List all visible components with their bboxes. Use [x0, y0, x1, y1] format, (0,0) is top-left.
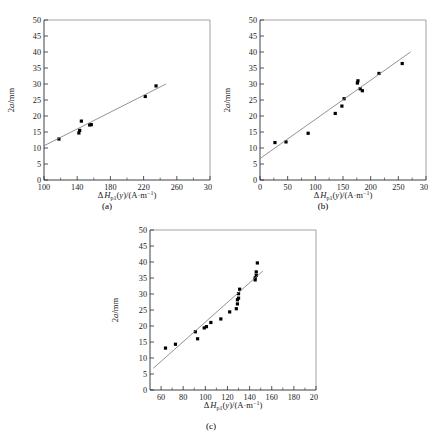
svg-text:2a/mm: 2a/mm [110, 298, 120, 323]
y-tick-label: 15 [33, 128, 41, 137]
y-tick-label: 5 [37, 160, 41, 169]
x-axis-title-c: ΔHp1(y)/(A·m−1) [204, 400, 263, 411]
data-point [80, 120, 83, 123]
data-point [164, 346, 167, 349]
x-tick-label: 60 [157, 393, 165, 402]
y-tick-label: 25 [139, 306, 147, 315]
svg-text:ΔHp1(y)/(A·m−1): ΔHp1(y)/(A·m−1) [314, 190, 373, 201]
scatter-plot-a: 05101520253035404550 100140180220260300 … [2, 6, 212, 206]
y-tick-label: 30 [249, 80, 257, 89]
y-tick-label: 50 [139, 226, 147, 235]
y-tick-label: 45 [33, 32, 41, 41]
data-point [219, 317, 222, 320]
data-point [356, 79, 359, 82]
y-tick-label: 20 [33, 112, 41, 121]
data-point [255, 270, 258, 273]
x-tick-label: 140 [71, 183, 83, 192]
x-tick-label: 50 [284, 183, 292, 192]
data-point [228, 310, 231, 313]
data-point [307, 132, 310, 135]
svg-text:ΔHp1(y)/(A·m−1): ΔHp1(y)/(A·m−1) [98, 190, 157, 201]
scatter-plot-b: 05101520253035404550 050100150200250300 … [218, 6, 428, 206]
data-point [237, 297, 240, 300]
plot-frame-a [44, 20, 210, 180]
chart-panel-c: 05101520253035404550 6080100120140160180… [104, 218, 318, 434]
y-tick-label: 10 [249, 144, 257, 153]
y-tick-label: 45 [249, 32, 257, 41]
y-ticks-c: 05101520253035404550 [139, 226, 154, 395]
y-tick-label: 25 [249, 96, 257, 105]
data-point [235, 307, 238, 310]
y-tick-label: 35 [139, 274, 147, 283]
y-axis-title-c: 2a/mm [110, 298, 120, 323]
data-point [205, 325, 208, 328]
y-tick-label: 35 [33, 64, 41, 73]
svg-text:2a/mm: 2a/mm [222, 88, 232, 113]
y-tick-label: 50 [249, 16, 257, 25]
data-point [90, 123, 93, 126]
panel-caption-b: (b) [218, 202, 428, 211]
panel-caption-c: (c) [104, 422, 318, 431]
regression-line-a [44, 84, 166, 146]
x-tick-label: 300 [420, 183, 428, 192]
x-tick-label: 0 [258, 183, 262, 192]
scatter-plot-c: 05101520253035404550 6080100120140160180… [104, 218, 318, 426]
y-tick-label: 35 [249, 64, 257, 73]
y-tick-label: 20 [139, 322, 147, 331]
regression-line-b [260, 52, 411, 159]
y-ticks-a: 05101520253035404550 [33, 16, 48, 185]
data-series-a [57, 84, 157, 140]
y-tick-label: 0 [253, 176, 257, 185]
y-tick-label: 0 [143, 386, 147, 395]
y-tick-label: 40 [33, 48, 41, 57]
chart-panel-a: 05101520253035404550 100140180220260300 … [2, 6, 212, 214]
panel-caption-a: (a) [2, 202, 212, 211]
x-tick-label: 260 [171, 183, 183, 192]
data-point [273, 141, 276, 144]
figure-container: 05101520253035404550 100140180220260300 … [0, 0, 431, 440]
plot-frame-c [150, 230, 316, 390]
x-tick-label: 180 [288, 393, 300, 402]
data-point [256, 261, 259, 264]
y-axis-title-b: 2a/mm [222, 88, 232, 113]
y-tick-label: 15 [139, 338, 147, 347]
data-point [361, 89, 364, 92]
y-tick-label: 40 [139, 258, 147, 267]
svg-text:ΔHp1(y)/(A·m−1): ΔHp1(y)/(A·m−1) [204, 400, 263, 411]
data-point [334, 112, 337, 115]
regression-line-c [153, 271, 263, 368]
x-tick-label: 100 [38, 183, 50, 192]
y-tick-label: 40 [249, 48, 257, 57]
data-point [174, 343, 177, 346]
data-point [78, 129, 81, 132]
x-tick-label: 300 [204, 183, 212, 192]
data-point [236, 302, 239, 305]
x-tick-label: 160 [266, 393, 278, 402]
y-tick-label: 5 [253, 160, 257, 169]
y-ticks-b: 05101520253035404550 [249, 16, 264, 185]
y-tick-label: 10 [33, 144, 41, 153]
y-tick-label: 50 [33, 16, 41, 25]
y-tick-label: 30 [33, 80, 41, 89]
data-point [196, 337, 199, 340]
x-axis-title-b: ΔHp1(y)/(A·m−1) [314, 190, 373, 201]
data-series-c [164, 261, 259, 349]
x-tick-label: 250 [392, 183, 404, 192]
y-axis-title-a: 2a/mm [6, 88, 16, 113]
data-point [401, 62, 404, 65]
svg-text:2a/mm: 2a/mm [6, 88, 16, 113]
y-tick-label: 30 [139, 290, 147, 299]
y-tick-label: 20 [249, 112, 257, 121]
y-tick-label: 10 [139, 354, 147, 363]
data-point [154, 84, 157, 87]
x-tick-label: 80 [179, 393, 187, 402]
y-tick-label: 25 [33, 96, 41, 105]
data-point [209, 321, 212, 324]
y-tick-label: 5 [143, 370, 147, 379]
y-tick-label: 45 [139, 242, 147, 251]
y-tick-label: 15 [249, 128, 257, 137]
chart-panel-b: 05101520253035404550 050100150200250300 … [218, 6, 428, 214]
x-axis-title-a: ΔHp1(y)/(A·m−1) [98, 190, 157, 201]
x-tick-label: 200 [310, 393, 318, 402]
data-point [340, 104, 343, 107]
